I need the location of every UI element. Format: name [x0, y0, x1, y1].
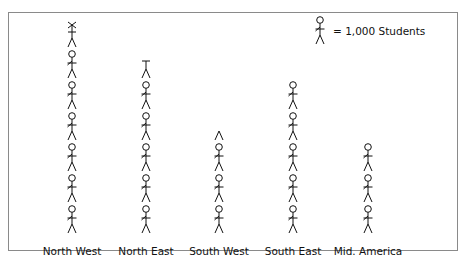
stick-figure-icon	[212, 205, 226, 235]
stick-figure-icon	[139, 81, 153, 111]
stick-figure-icon	[286, 205, 300, 235]
stick-figure-icon	[361, 205, 375, 235]
stick-figure-icon	[212, 143, 226, 173]
stick-figure-icon	[286, 112, 300, 142]
stick-figure-icon	[139, 143, 153, 173]
stick-figure-icon	[65, 81, 79, 111]
stick-figure-icon	[65, 50, 79, 80]
partial-stick-figure-icon	[139, 50, 153, 80]
stick-figure-icon	[65, 143, 79, 173]
stick-figure-icon	[212, 174, 226, 204]
category-label: Mid. America	[313, 245, 423, 257]
legend: = 1,000 Students	[313, 16, 425, 46]
stick-figure-icon	[286, 81, 300, 111]
legend-text: = 1,000 Students	[333, 25, 425, 37]
stick-figure-icon	[361, 143, 375, 173]
stick-figure-icon	[65, 112, 79, 142]
stick-figure-icon	[139, 205, 153, 235]
stick-figure-icon	[286, 174, 300, 204]
partial-stick-figure-icon	[212, 112, 226, 142]
stick-figure-icon	[139, 112, 153, 142]
partial-stick-figure-icon	[65, 19, 79, 49]
pictograph-column	[323, 142, 413, 235]
stick-figure-icon	[286, 143, 300, 173]
stick-figure-icon	[313, 16, 327, 46]
stick-figure-icon	[361, 174, 375, 204]
stick-figure-icon	[65, 174, 79, 204]
stick-figure-icon	[65, 205, 79, 235]
stick-figure-icon	[139, 174, 153, 204]
